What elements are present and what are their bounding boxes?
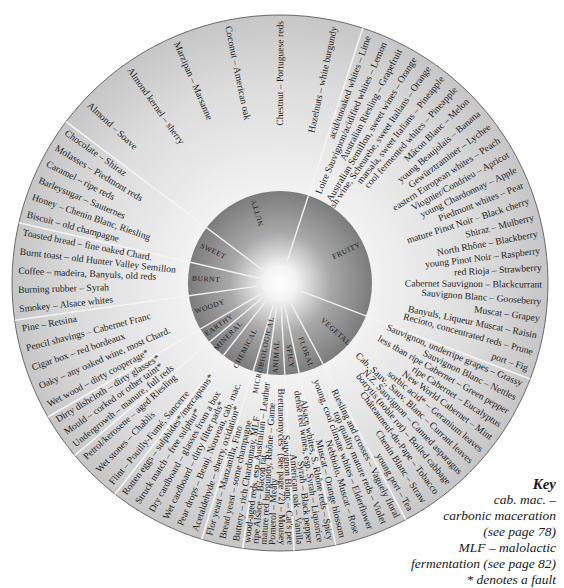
key-line: fermentation (see page 82): [411, 556, 556, 572]
key-legend: Key cab. mac. – carbonic maceration (see…: [411, 476, 556, 588]
aroma-label: Chestnut – Portuguese reds: [274, 21, 285, 126]
key-line: * denotes a fault: [411, 572, 556, 588]
key-line: carbonic maceration: [411, 508, 556, 524]
key-line: (see page 78): [411, 524, 556, 540]
category-burnt: BURNT: [192, 274, 220, 284]
key-title: Key: [411, 476, 556, 492]
category-animal: ANIMAL: [271, 340, 281, 374]
key-line: cab. mac. –: [411, 492, 556, 508]
key-line: MLF – malolactic: [411, 540, 556, 556]
